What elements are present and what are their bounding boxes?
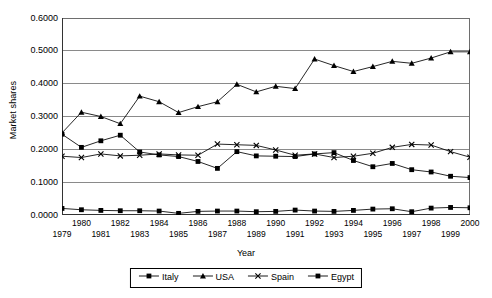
- y-tick-label: 0.6000: [14, 14, 58, 23]
- y-tick-label: 0.1000: [14, 178, 58, 187]
- legend-label: Spain: [271, 272, 294, 283]
- x-tick-label: 1986: [189, 218, 208, 228]
- y-tick-label: 0.2000: [14, 145, 58, 154]
- x-tick-label: 1996: [383, 218, 402, 228]
- x-axis-tick-labels: 1979198019811982198319841985198619871988…: [0, 216, 492, 246]
- x-tick-label: 1979: [53, 229, 72, 239]
- data-point-marker-square: [254, 209, 259, 214]
- x-tick-label: 1980: [72, 218, 91, 228]
- legend-item-usa[interactable]: USA: [191, 271, 234, 284]
- data-point-marker-triangle: [389, 58, 395, 63]
- data-point-marker-square: [448, 205, 453, 210]
- x-tick-label: 1990: [266, 218, 285, 228]
- series-line-egypt: [62, 207, 470, 213]
- x-tick-label: 1981: [91, 229, 110, 239]
- chart-legend: ItalyUSASpainEgypt: [130, 268, 362, 288]
- data-point-marker-square: [312, 209, 317, 214]
- data-point-marker-square: [351, 208, 356, 213]
- data-point-marker-square: [234, 149, 239, 154]
- y-tick-label: 0.4000: [14, 79, 58, 88]
- legend-item-spain[interactable]: Spain: [247, 271, 294, 284]
- y-tick-label: 0.3000: [14, 112, 58, 121]
- legend-marker-cross-icon: [247, 271, 269, 284]
- x-tick-label: 1999: [441, 229, 460, 239]
- legend-marker-square-icon: [307, 271, 329, 284]
- data-point-marker-square: [215, 209, 220, 214]
- data-point-marker-square: [429, 206, 434, 211]
- series-usa: [62, 49, 470, 135]
- data-point-marker-triangle: [312, 56, 318, 61]
- x-tick-label: 1984: [150, 218, 169, 228]
- series-spain: [62, 141, 470, 160]
- data-point-marker-triangle: [78, 109, 84, 114]
- data-point-marker-square: [390, 161, 395, 166]
- data-point-marker-square: [351, 158, 356, 163]
- x-tick-label: 1985: [169, 229, 188, 239]
- x-tick-label: 1997: [402, 229, 421, 239]
- data-point-marker-square: [273, 209, 278, 214]
- data-point-marker-square: [468, 175, 470, 180]
- legend-marker-square-icon: [138, 271, 160, 284]
- legend-marker-triangle-icon: [191, 271, 213, 284]
- x-tick-label: 2000: [461, 218, 480, 228]
- x-tick-label: 1998: [422, 218, 441, 228]
- plot-area: [62, 18, 470, 215]
- x-tick-label: 1995: [363, 229, 382, 239]
- x-axis-title: Year: [0, 248, 492, 258]
- legend-label: USA: [215, 272, 234, 283]
- data-point-marker-square: [196, 209, 201, 214]
- legend-item-italy[interactable]: Italy: [138, 271, 179, 284]
- data-point-marker-square: [157, 209, 162, 214]
- data-point-marker-triangle: [117, 121, 123, 126]
- x-tick-label: 1994: [344, 218, 363, 228]
- plot-svg: [62, 18, 470, 215]
- x-tick-label: 1993: [325, 229, 344, 239]
- x-tick-label: 1988: [227, 218, 246, 228]
- data-point-marker-square: [79, 145, 84, 150]
- data-point-marker-square: [254, 154, 259, 159]
- data-point-marker-square: [370, 207, 375, 212]
- data-point-marker-square: [176, 211, 181, 215]
- series-line-usa: [62, 52, 470, 133]
- data-point-marker-square: [118, 208, 123, 213]
- series-line-spain: [62, 144, 470, 157]
- data-point-marker-square: [429, 170, 434, 175]
- data-point-marker-square: [370, 164, 375, 169]
- legend-label: Italy: [162, 272, 179, 283]
- data-point-marker-square: [468, 205, 470, 210]
- data-point-marker-square: [215, 166, 220, 171]
- chart-figure: Market shares 0.00000.10000.20000.30000.…: [0, 0, 492, 298]
- data-point-marker-square: [409, 167, 414, 172]
- data-point-marker-square: [316, 274, 321, 279]
- data-point-marker-square: [118, 133, 123, 138]
- data-point-marker-square: [196, 159, 201, 164]
- data-point-marker-square: [409, 209, 414, 214]
- data-point-marker-square: [62, 206, 64, 211]
- data-point-marker-square: [137, 208, 142, 213]
- data-point-marker-square: [79, 207, 84, 212]
- data-point-marker-square: [390, 206, 395, 211]
- series-egypt: [62, 205, 470, 215]
- data-point-marker-square: [147, 274, 152, 279]
- data-point-marker-square: [98, 138, 103, 143]
- x-tick-label: 1982: [111, 218, 130, 228]
- data-point-marker-triangle: [137, 93, 143, 98]
- data-point-marker-square: [332, 150, 337, 155]
- y-tick-label: 0.5000: [14, 46, 58, 55]
- legend-label: Egypt: [331, 272, 354, 283]
- x-tick-label: 1992: [305, 218, 324, 228]
- data-point-marker-square: [98, 208, 103, 213]
- data-point-marker-square: [234, 209, 239, 214]
- x-tick-label: 1983: [130, 229, 149, 239]
- data-point-marker-square: [273, 154, 278, 159]
- x-tick-label: 1991: [286, 229, 305, 239]
- x-tick-label: 1989: [247, 229, 266, 239]
- data-point-marker-square: [332, 209, 337, 214]
- legend-item-egypt[interactable]: Egypt: [307, 271, 354, 284]
- data-point-marker-square: [293, 208, 298, 213]
- data-point-marker-square: [448, 174, 453, 179]
- x-tick-label: 1987: [208, 229, 227, 239]
